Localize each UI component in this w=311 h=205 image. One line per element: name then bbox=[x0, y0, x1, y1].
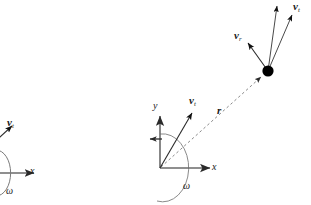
omega-label: ω bbox=[183, 181, 190, 191]
tangential-particle-subscript: t bbox=[298, 6, 300, 13]
left-tangential-subscript: t bbox=[12, 122, 14, 129]
particle-dot bbox=[262, 65, 273, 76]
radial-particle-subscript: r bbox=[239, 35, 242, 42]
left-x-axis-label: x bbox=[30, 166, 34, 176]
position-vector-r bbox=[161, 77, 261, 167]
main-diagram bbox=[150, 6, 292, 202]
x-axis-label: x bbox=[212, 162, 216, 172]
left-omega-label: ω bbox=[6, 186, 13, 196]
tangential-origin-subscript: t bbox=[194, 100, 196, 107]
tangential-origin-label: vt bbox=[189, 95, 196, 107]
y-axis-label: y bbox=[153, 101, 157, 111]
left-tangential-label: vt bbox=[7, 117, 14, 129]
position-vector-label: r bbox=[217, 105, 221, 116]
radial-particle-label: vr bbox=[234, 30, 242, 42]
tangential-vector-origin bbox=[160, 113, 192, 168]
tangential-particle-label: vt bbox=[293, 1, 300, 13]
